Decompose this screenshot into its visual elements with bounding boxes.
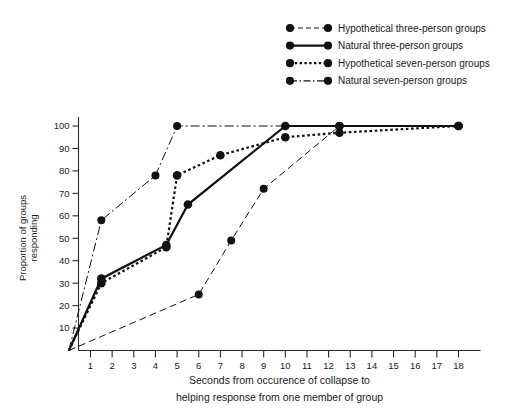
x-axis-tick-label: 13 <box>345 360 356 371</box>
y-axis-tick-label: 60 <box>59 210 70 221</box>
legend-marker-left <box>286 24 294 32</box>
data-point-marker <box>281 133 290 142</box>
x-axis-tick-label: 7 <box>218 360 223 371</box>
y-axis-title: Proportion of groupsresponding <box>17 195 39 281</box>
data-point-marker <box>216 151 225 160</box>
chart-figure: Hypothetical three-person groupsNatural … <box>0 0 505 413</box>
data-point-marker <box>184 200 193 209</box>
data-point-marker <box>260 185 268 193</box>
data-point-marker <box>97 279 106 288</box>
y-axis-tick-label: 70 <box>59 188 70 199</box>
chart-series-lines <box>69 126 459 351</box>
chart-axis-titles: Proportion of groupsrespondingSeconds fr… <box>17 195 383 403</box>
chart-axes: 1020304050607080901001234567891011121314… <box>54 117 481 371</box>
series-line-1 <box>69 126 459 351</box>
legend-item: Natural seven-person groups <box>286 75 467 86</box>
x-axis-tick-label: 12 <box>323 360 334 371</box>
y-axis-tick-label: 80 <box>59 165 70 176</box>
legend-label: Natural seven-person groups <box>338 75 467 86</box>
x-axis-tick-label: 2 <box>109 360 114 371</box>
data-point-marker <box>162 243 171 252</box>
legend-label: Hypothetical three-person groups <box>338 23 486 34</box>
series-line-2 <box>69 126 459 351</box>
x-axis-tick-label: 10 <box>280 360 291 371</box>
x-axis-tick-label: 9 <box>261 360 266 371</box>
legend-marker-left <box>286 59 294 67</box>
chart-legend: Hypothetical three-person groupsNatural … <box>286 23 490 87</box>
legend-label: Natural three-person groups <box>338 40 463 51</box>
x-axis-tick-label: 14 <box>367 360 378 371</box>
x-axis-tick-label: 3 <box>131 360 136 371</box>
x-axis-tick-label: 8 <box>239 360 244 371</box>
data-point-marker <box>335 122 343 130</box>
x-axis-tick-label: 11 <box>302 360 312 371</box>
legend-marker-left <box>286 42 294 50</box>
data-point-marker <box>173 122 181 130</box>
x-axis-tick-label: 5 <box>174 360 179 371</box>
data-point-marker <box>455 122 463 130</box>
data-point-marker <box>281 122 290 131</box>
y-axis-tick-label: 20 <box>59 300 70 311</box>
y-axis-tick-label: 40 <box>59 255 70 266</box>
series-line-0 <box>69 126 459 351</box>
y-axis-tick-label: 90 <box>59 143 70 154</box>
y-axis-tick-label: 100 <box>54 120 70 131</box>
proportion-of-groups-responding-line-chart: Hypothetical three-person groupsNatural … <box>0 0 505 413</box>
data-point-marker <box>195 290 203 298</box>
x-axis-tick-label: 16 <box>410 360 421 371</box>
legend-label: Hypothetical seven-person groups <box>338 58 490 69</box>
legend-item: Natural three-person groups <box>286 40 463 51</box>
y-axis-tick-label: 10 <box>59 322 70 333</box>
y-axis-tick-label: 30 <box>59 278 70 289</box>
data-point-marker <box>151 171 159 179</box>
legend-item: Hypothetical seven-person groups <box>286 58 490 69</box>
x-axis-tick-label: 15 <box>388 360 399 371</box>
data-point-marker <box>173 171 182 180</box>
y-axis-tick-label: 50 <box>59 233 70 244</box>
legend-marker-right <box>324 77 332 85</box>
x-axis-tick-label: 18 <box>453 360 464 371</box>
series-line-3 <box>69 126 459 351</box>
x-axis-tick-label: 4 <box>153 360 158 371</box>
x-axis-tick-label: 17 <box>432 360 443 371</box>
legend-marker-right <box>324 42 332 50</box>
chart-data-markers <box>97 122 463 299</box>
x-axis-tick-label: 6 <box>196 360 201 371</box>
legend-marker-right <box>324 59 332 67</box>
x-axis-tick-label: 1 <box>88 360 93 371</box>
data-point-marker <box>227 237 235 245</box>
data-point-marker <box>97 216 105 224</box>
x-axis-title: Seconds from occurence of collapse tohel… <box>176 374 383 403</box>
legend-marker-left <box>286 77 294 85</box>
legend-item: Hypothetical three-person groups <box>286 23 486 34</box>
legend-marker-right <box>324 24 332 32</box>
